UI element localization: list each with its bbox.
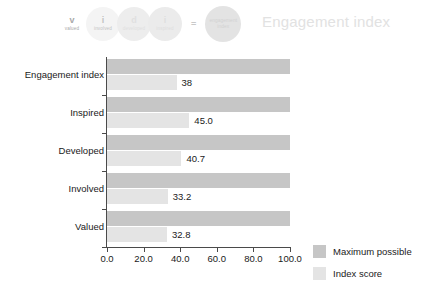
legend-item-maximum-possible: Maximum possible [313, 245, 412, 258]
x-axis-tick-label: 60.0 [208, 253, 227, 264]
x-axis-tick [180, 248, 181, 252]
y-axis-tick [102, 95, 107, 96]
bar-group: Valued32.8 [107, 209, 290, 247]
x-axis-tick-label: 0.0 [100, 253, 113, 264]
y-axis-tick [102, 133, 107, 134]
legend-label-maximum-possible: Maximum possible [333, 246, 412, 257]
bar-index-score [107, 113, 189, 128]
formula-letter-valued: v [69, 16, 74, 25]
formula-circle-inspired: i inspired [148, 7, 182, 41]
y-axis-category-label: Engagement index [4, 69, 104, 80]
x-axis-tick [290, 248, 291, 252]
bar-value-label: 40.7 [181, 153, 205, 164]
formula-circles-row: v valued i involved d developed i inspir… [55, 4, 241, 44]
bar-value-label: 45.0 [189, 115, 213, 126]
x-axis-tick [144, 248, 145, 252]
formula-letter-inspired: i [164, 16, 167, 25]
engagement-bar-chart: Engagement index38Inspired45.0Developed4… [0, 48, 433, 274]
y-axis-category-label: Inspired [4, 107, 104, 118]
bar-index-score [107, 151, 181, 166]
bar-value-label: 32.8 [167, 229, 191, 240]
bar-group: Involved33.2 [107, 171, 290, 209]
chart-legend: Maximum possible Index score [313, 245, 412, 284]
x-axis-tick-label: 40.0 [171, 253, 190, 264]
formula-word-inspired: inspired [156, 27, 173, 32]
formula-circle-result: engagement index [205, 6, 241, 42]
formula-letter-involved: i [102, 16, 105, 25]
x-axis-tick [107, 248, 108, 252]
legend-swatch-index-score [313, 267, 326, 280]
x-axis-tick [217, 248, 218, 252]
bar-index-score [107, 75, 177, 90]
bar-group: Developed40.7 [107, 133, 290, 171]
x-axis-line [106, 247, 291, 248]
legend-swatch-maximum-possible [313, 245, 326, 258]
formula-letter-developed: d [131, 16, 137, 25]
formula-circle-involved: i involved [86, 7, 120, 41]
formula-circle-valued: v valued [55, 7, 89, 41]
x-axis-tick-label: 20.0 [134, 253, 153, 264]
page-title: Engagement index [262, 13, 390, 30]
x-axis-tick-label: 80.0 [244, 253, 263, 264]
bar-index-score [107, 227, 167, 242]
y-axis-tick [102, 171, 107, 172]
bar-maximum-possible [107, 135, 290, 150]
bar-group: Engagement index38 [107, 57, 290, 95]
x-axis-tick [253, 248, 254, 252]
y-axis-tick [102, 209, 107, 210]
engagement-formula-header: v valued i involved d developed i inspir… [0, 0, 433, 48]
bar-index-score [107, 189, 168, 204]
bar-maximum-possible [107, 59, 290, 74]
formula-result-line2: index [217, 24, 229, 30]
y-axis-category-label: Involved [4, 183, 104, 194]
bar-maximum-possible [107, 173, 290, 188]
x-axis-tick-label: 100.0 [278, 253, 302, 264]
bar-group: Inspired45.0 [107, 95, 290, 133]
y-axis-category-label: Developed [4, 145, 104, 156]
formula-word-valued: valued [65, 27, 79, 32]
formula-word-involved: involved [94, 27, 112, 32]
y-axis-category-label: Valued [4, 221, 104, 232]
formula-word-developed: developed [123, 27, 146, 32]
bar-maximum-possible [107, 97, 290, 112]
equals-icon: = [191, 19, 196, 29]
bar-value-label: 33.2 [168, 191, 192, 202]
formula-circle-developed: d developed [117, 7, 151, 41]
legend-label-index-score: Index score [333, 268, 382, 279]
bar-maximum-possible [107, 211, 290, 226]
bar-value-label: 38 [177, 77, 193, 88]
y-axis-tick [102, 247, 107, 248]
legend-item-index-score: Index score [313, 267, 412, 280]
